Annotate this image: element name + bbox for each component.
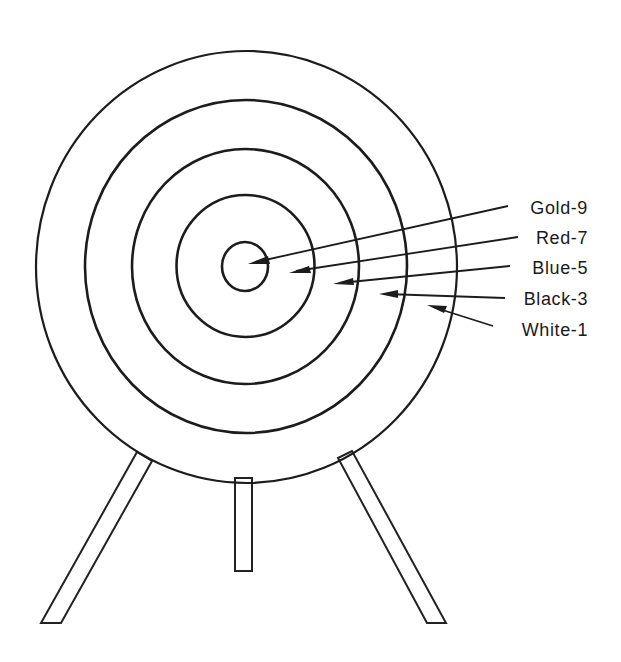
ring-red	[177, 195, 315, 337]
arrowhead-icon	[379, 290, 398, 298]
archery-target-diagram: Gold-9 Red-7 Blue-5 Black-3 White-1	[0, 0, 621, 662]
arrowhead-icon	[427, 305, 447, 313]
ring-white	[36, 51, 457, 483]
label-red: Red-7	[536, 228, 588, 248]
callout-labels: Gold-9 Red-7 Blue-5 Black-3 White-1	[522, 198, 588, 340]
leader-red	[289, 237, 518, 273]
leader-gold	[248, 206, 508, 264]
center-leg	[235, 478, 252, 571]
leader-black	[379, 290, 505, 298]
left-leg	[41, 452, 152, 623]
label-blue: Blue-5	[532, 258, 588, 278]
callout-leaders	[248, 206, 518, 326]
label-white: White-1	[522, 320, 588, 340]
arrowhead-icon	[333, 278, 354, 285]
stand	[41, 451, 446, 623]
arrowhead-icon	[289, 266, 311, 273]
right-leg	[338, 451, 446, 623]
leader-line	[340, 266, 510, 283]
ring-gold	[222, 242, 268, 291]
target-face	[36, 51, 457, 483]
arrowhead-icon	[248, 256, 270, 264]
label-gold: Gold-9	[530, 198, 588, 218]
leader-white	[427, 305, 493, 326]
label-black: Black-3	[524, 289, 588, 309]
